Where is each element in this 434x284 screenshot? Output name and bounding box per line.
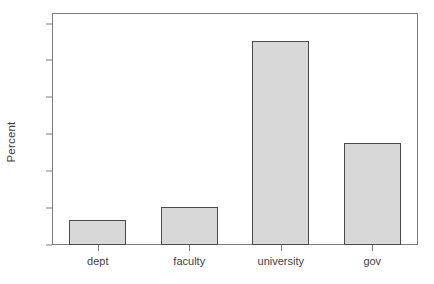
x-tick-label-gov: gov (363, 255, 381, 267)
bar-university (252, 41, 309, 245)
x-tick-mark-faculty (189, 245, 190, 251)
x-tick-label-dept: dept (87, 255, 108, 267)
x-tick-mark-dept (98, 245, 99, 251)
x-tick-mark-gov (372, 245, 373, 251)
bar-faculty (161, 207, 218, 245)
x-tick-mark-university (281, 245, 282, 251)
y-axis-title: Percent (0, 0, 22, 284)
bar-gov (344, 143, 401, 245)
x-tick-label-faculty: faculty (173, 255, 205, 267)
x-tick-label-university: university (258, 255, 304, 267)
bar-series (52, 13, 418, 245)
bar-chart: Percent 0102030405060 deptfacultyunivers… (0, 0, 434, 284)
bar-dept (69, 220, 126, 245)
